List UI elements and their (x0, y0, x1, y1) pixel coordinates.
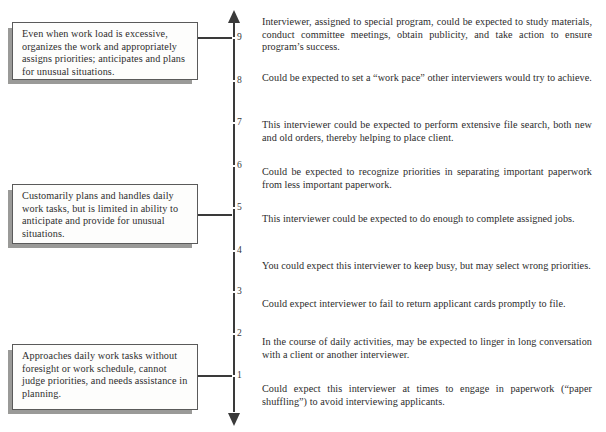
anchor-box-high: Even when work load is excessive, organi… (12, 22, 198, 80)
anchor-box-high-text: Even when work load is excessive, organi… (22, 28, 189, 78)
behavioral-example-5: This interviewer could be expected to do… (262, 213, 592, 226)
behavioral-example-7: Could expect interviewer to fail to retu… (262, 298, 592, 311)
anchor-box-low-text: Approaches daily work tasks without fore… (22, 350, 189, 400)
axis-tick-label-3: 3 (237, 286, 242, 296)
axis-tick-label-1: 1 (237, 370, 242, 380)
bars-figure: Even when work load is excessive, organi… (0, 0, 606, 432)
behavioral-example-8: In the course of daily activities, may b… (262, 336, 592, 361)
behavioral-example-6: You could expect this interviewer to kee… (262, 260, 592, 273)
behavioral-example-3: This interviewer could be expected to pe… (262, 119, 592, 144)
axis-tick-label-4: 4 (237, 245, 242, 255)
behavioral-example-4: Could be expected to recognize prioritie… (262, 166, 592, 191)
axis-tick-label-5: 5 (237, 202, 242, 212)
axis-tick-label-2: 2 (237, 328, 242, 338)
rating-scale-axis: 987654321 (226, 8, 246, 426)
anchor-box-low: Approaches daily work tasks without fore… (12, 344, 198, 410)
axis-arrow-down-icon (228, 413, 240, 426)
anchor-box-middle: Customarily plans and handles daily work… (12, 184, 198, 244)
behavioral-example-1: Interviewer, assigned to special program… (262, 16, 592, 54)
behavioral-example-9: Could expect this interviewer at times t… (262, 383, 592, 408)
behavioral-example-2: Could be expected to set a “work pace” o… (262, 72, 592, 85)
axis-tick-label-8: 8 (237, 75, 242, 85)
axis-tick-label-9: 9 (237, 32, 242, 42)
axis-tick-label-7: 7 (237, 117, 242, 127)
anchor-box-middle-text: Customarily plans and handles daily work… (22, 190, 189, 240)
axis-tick-label-6: 6 (237, 160, 242, 170)
